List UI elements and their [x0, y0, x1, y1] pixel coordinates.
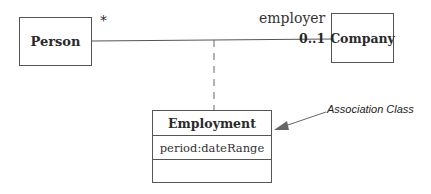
class-company-name: Company	[330, 31, 395, 46]
class-person[interactable]: Person	[19, 17, 92, 66]
annotation-arrowhead-icon	[274, 121, 289, 130]
company-multiplicity: 0..1	[299, 31, 325, 46]
annotation-arrow-line	[282, 112, 326, 127]
class-person-name: Person	[31, 34, 81, 49]
uml-diagram: Person Company Employment period:dateRan…	[0, 0, 431, 194]
employment-attribute: period:dateRange	[160, 141, 265, 155]
employment-attributes-compartment: period:dateRange	[153, 136, 271, 160]
class-company[interactable]: Company	[331, 13, 394, 63]
employment-name-compartment: Employment	[153, 111, 271, 136]
class-employment[interactable]: Employment period:dateRange	[152, 110, 272, 183]
association-line	[92, 39, 331, 41]
employer-role-label: employer	[259, 10, 325, 26]
class-employment-name: Employment	[168, 116, 256, 131]
employment-operations-compartment	[153, 160, 271, 182]
person-multiplicity: *	[100, 12, 107, 28]
association-class-annotation: Association Class	[327, 103, 414, 115]
